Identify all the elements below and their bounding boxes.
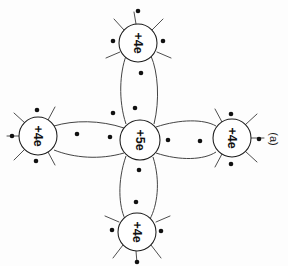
radial-stub-right-2 (245, 151, 257, 162)
electron-dot (137, 168, 142, 173)
atom-label-left: +4e (31, 125, 45, 146)
figure-canvas: +5e +4e +4e +4e +4e (0, 0, 288, 266)
radial-stub-bottom-4 (156, 216, 170, 222)
electron-dot (34, 159, 39, 164)
bond-top (121, 56, 158, 124)
radial-stub-bottom-2 (151, 245, 161, 258)
bond-left-edge-bottom (54, 150, 124, 157)
electron-dot (257, 137, 262, 142)
radial-stub-right-1 (245, 114, 257, 125)
radial-stub-top-3 (106, 52, 120, 58)
bond-bottom-edge-right (150, 157, 157, 219)
atom-label-right: +4e (225, 127, 239, 148)
electron-dot (229, 162, 234, 167)
electron-dot (135, 260, 140, 265)
bond-right-edge-top (156, 121, 216, 127)
radial-stub-right-3 (215, 109, 222, 122)
radial-stub-bottom-1 (113, 245, 123, 258)
electron-dot (136, 9, 141, 14)
electron-dot (134, 200, 139, 205)
radial-stub-left-2 (14, 149, 25, 160)
radial-stub-left-4 (48, 152, 55, 165)
electron-dot (139, 71, 144, 76)
radial-stub-top-5 (134, 12, 136, 24)
electron-dot (159, 229, 164, 234)
bond-right-edge-bottom (156, 152, 216, 159)
radial-stub-left-1 (14, 113, 25, 123)
bond-top-edge-right (151, 56, 158, 124)
radial-stub-right-4 (215, 154, 222, 167)
radial-stub-top-2 (152, 19, 163, 30)
atom-label-center: +5e (133, 129, 147, 150)
electron-dot (110, 228, 115, 233)
electron-dot (111, 111, 116, 116)
bond-bottom (120, 156, 158, 219)
electron-dot (161, 39, 166, 44)
radial-stub-bottom-3 (105, 216, 119, 222)
electron-dot (229, 112, 234, 117)
radial-stub-top-4 (157, 52, 171, 58)
atom-label-group: +5e +4e +4e +4e +4e (31, 32, 239, 242)
electron-dot (166, 138, 171, 143)
electron-dot (75, 132, 80, 137)
panel-label: (a) (268, 132, 280, 145)
electron-dot (133, 106, 138, 111)
electron-dot (198, 139, 203, 144)
atom-label-top: +4e (131, 32, 145, 53)
electron-dot (10, 134, 15, 139)
electron-dot (111, 39, 116, 44)
radial-stub-top-1 (114, 19, 124, 30)
electron-dot (108, 135, 113, 140)
radial-stub-left-3 (48, 107, 55, 120)
bond-top-edge-left (121, 56, 126, 124)
bond-bottom-edge-left (120, 156, 126, 219)
bond-left-edge-top (54, 122, 124, 128)
atom-label-bottom: +4e (130, 221, 144, 242)
bond-left (54, 122, 124, 158)
electron-dot (35, 108, 40, 113)
covalent-bond-diagram: +5e +4e +4e +4e +4e (0, 0, 288, 266)
bond-right (156, 121, 216, 159)
